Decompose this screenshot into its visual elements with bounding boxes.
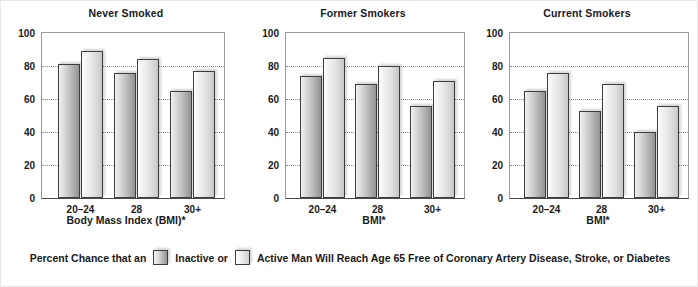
plot-area: 100 80 60 40 20 0 20–24 [41,32,225,199]
bar-group: 28 [114,33,159,198]
bar-group: 20–24 [58,33,103,198]
bar-active [81,51,103,198]
y-tick-label: 0 [497,193,503,204]
bar-group: 20–24 [300,33,345,198]
plot-area: 100 80 60 40 20 0 20–24 [285,32,465,199]
bars-layer: 20–24 28 30+ [286,33,464,198]
y-tick-label: 0 [29,193,35,204]
panel-current-smokers: Current Smokers 100 80 60 40 20 0 20–24 [475,1,698,233]
x-axis-title: Body Mass Index (BMI)* [1,214,251,226]
y-tick-label: 20 [268,160,279,171]
y-tick-label: 60 [268,94,279,105]
legend-label-active: Active Man Will Reach Age 65 Free of Cor… [257,252,670,264]
bar-active [602,84,624,198]
bar-active [323,58,345,198]
bar-group: 30+ [410,33,455,198]
y-tick-label: 80 [492,61,503,72]
bar-inactive [524,91,546,198]
panel-former-smokers: Former Smokers 100 80 60 40 20 0 20–24 [251,1,475,233]
chart-figure: Never Smoked 100 80 60 40 20 0 20–24 [0,0,698,287]
bar-active [193,71,215,198]
chart-legend: Percent Chance that an Inactive or Activ… [1,250,698,265]
bar-inactive [300,76,322,198]
x-axis-title: BMI* [285,214,463,226]
bar-active [547,73,569,198]
bar-group: 20–24 [524,33,569,198]
bar-active [378,66,400,198]
bar-inactive [170,91,192,198]
panel-title: Former Smokers [251,7,475,19]
bar-inactive [114,73,136,198]
y-tick-label: 60 [24,94,35,105]
bar-group: 30+ [634,33,679,198]
y-tick-label: 100 [18,28,35,39]
y-tick-label: 80 [24,61,35,72]
bars-layer: 20–24 28 30+ [42,33,224,198]
y-tick-label: 100 [486,28,503,39]
bar-group: 28 [579,33,624,198]
panel-row: Never Smoked 100 80 60 40 20 0 20–24 [1,1,698,233]
bar-active [137,59,159,198]
panel-title: Never Smoked [1,7,251,19]
bar-group: 28 [355,33,400,198]
legend-swatch-active-icon [235,250,250,265]
x-axis-title: BMI* [509,214,687,226]
y-tick-label: 40 [492,127,503,138]
y-tick-label: 20 [492,160,503,171]
legend-label-inactive: Inactive or [175,252,228,264]
y-tick-label: 20 [24,160,35,171]
bar-inactive [410,106,432,198]
y-tick-label: 100 [262,28,279,39]
plot-area: 100 80 60 40 20 0 20–24 [509,32,689,199]
bar-group: 30+ [170,33,215,198]
y-tick-label: 80 [268,61,279,72]
panel-never-smoked: Never Smoked 100 80 60 40 20 0 20–24 [1,1,251,233]
bar-inactive [58,64,80,198]
y-tick-label: 40 [24,127,35,138]
bar-inactive [634,132,656,198]
bar-active [657,106,679,198]
legend-lead-text: Percent Chance that an [30,252,147,264]
y-tick-label: 40 [268,127,279,138]
legend-swatch-inactive-icon [153,250,168,265]
y-tick-label: 0 [273,193,279,204]
bar-inactive [579,111,601,198]
bars-layer: 20–24 28 30+ [510,33,688,198]
bar-active [433,81,455,198]
y-tick-label: 60 [492,94,503,105]
panel-title: Current Smokers [475,7,698,19]
bar-inactive [355,84,377,198]
